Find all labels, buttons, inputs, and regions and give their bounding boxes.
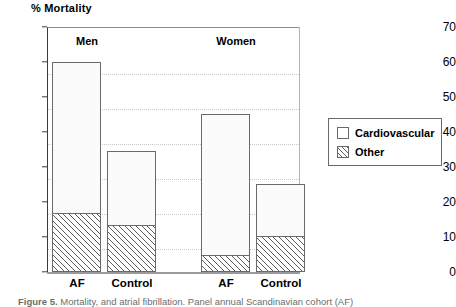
y-tick-label-0: 0 [414,265,456,279]
figure-caption: Figure 5. Mortality, and atrial fibrilla… [18,296,448,307]
y-tick-mark-40 [42,131,47,132]
x-tick-label-women-af: AF [218,277,233,289]
y-tick-mark-20 [42,201,47,202]
legend-item-cardiovascular: Cardiovascular [337,127,434,139]
chart-legend: Cardiovascular Other [328,118,442,166]
figure-chart: % Mortality 70 60 50 40 30 20 10 0 Men W… [0,0,456,307]
legend-swatch-other-icon [337,146,349,158]
x-tick-label-women-control: Control [261,277,302,289]
legend-swatch-cardiovascular-icon [337,127,349,139]
y-tick-label-70: 70 [414,20,456,34]
bar-segment-other-men-control [108,225,155,271]
y-tick-mark-0 [42,271,47,272]
y-tick-mark-30 [42,166,47,167]
y-tick-mark-70 [42,26,47,27]
y-tick-mark-50 [42,96,47,97]
x-tick-label-men-control: Control [112,277,153,289]
y-tick-mark-60 [42,61,47,62]
y-tick-label-60: 60 [414,55,456,69]
bar-men-af [52,62,101,272]
bar-segment-other-men-af [53,213,100,271]
y-tick-label-10: 10 [414,230,456,244]
y-tick-label-50: 50 [414,90,456,104]
bar-segment-other-women-control [257,236,304,271]
chart-title: % Mortality [31,2,92,14]
bar-segment-other-women-af [202,255,249,271]
x-axis-line [47,272,300,274]
x-tick-label-men-af: AF [69,277,84,289]
bar-women-af [201,114,250,272]
bar-men-control [107,151,156,272]
legend-label-cardiovascular: Cardiovascular [355,127,434,139]
figure-caption-text: Mortality, and atrial fibrillation. Pane… [60,296,353,307]
legend-label-other: Other [355,146,384,158]
y-tick-mark-10 [42,236,47,237]
group-label-women: Women [216,35,256,47]
group-label-men: Men [76,35,98,47]
y-tick-label-20: 20 [414,195,456,209]
legend-item-other: Other [337,146,384,158]
figure-caption-label: Figure 5. [18,296,58,307]
bar-women-control [256,184,305,272]
